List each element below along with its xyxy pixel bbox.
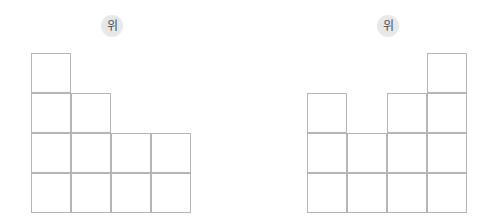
cube-cell (427, 133, 467, 173)
cube-cell (31, 173, 71, 213)
cube-cell (151, 173, 191, 213)
cube-cell (307, 93, 347, 133)
cube-cell (71, 133, 111, 173)
cube-cell (427, 93, 467, 133)
cube-cell (427, 173, 467, 213)
cube-cell (427, 53, 467, 93)
left-figure: 위 (0, 0, 248, 223)
cube-cell (387, 93, 427, 133)
cube-cell (307, 133, 347, 173)
cube-cell (71, 173, 111, 213)
cube-cell (31, 53, 71, 93)
cube-cell (387, 133, 427, 173)
cube-cell (387, 173, 427, 213)
left-cube-stack (31, 53, 191, 213)
direction-badge-top-right: 위 (377, 15, 399, 37)
right-cube-stack (307, 53, 467, 213)
cube-cell (31, 133, 71, 173)
right-figure: 위 (248, 0, 496, 223)
cube-cell (307, 173, 347, 213)
cube-cell (347, 133, 387, 173)
cube-cell (71, 93, 111, 133)
direction-badge-top-left: 위 (101, 15, 123, 37)
cube-cell (111, 173, 151, 213)
cube-cell (347, 173, 387, 213)
cube-cell (31, 93, 71, 133)
cube-cell (151, 133, 191, 173)
cube-cell (111, 133, 151, 173)
